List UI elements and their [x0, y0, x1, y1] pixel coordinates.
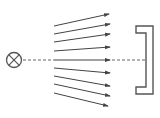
ray-arrow	[54, 84, 110, 96]
ray-arrow	[54, 34, 110, 42]
ray-arrow	[54, 93, 108, 106]
light-source	[7, 53, 22, 68]
ray-arrow	[54, 47, 110, 51]
ray-arrow	[54, 14, 109, 26]
ray-arrow	[54, 76, 110, 86]
ray-arrow	[54, 24, 110, 34]
optics-diagram	[0, 0, 160, 118]
ray-arrow	[54, 68, 110, 73]
